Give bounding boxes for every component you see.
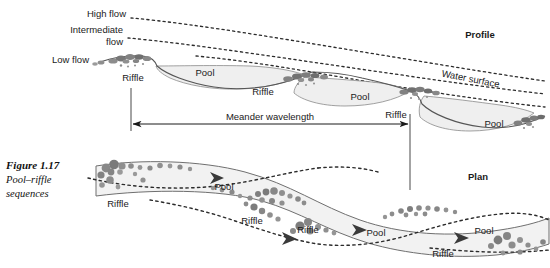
plan-riffle-label-3: Riffle [297,224,318,235]
plan-panel-label: Plan [468,171,488,182]
profile-riffle-label-3: Riffle [385,109,406,120]
profile-riffle-label-1: Riffle [122,72,143,83]
profile-pool-label-3: Pool [484,118,503,129]
figure-background [0,0,550,268]
caption-line-3: sequences [6,188,49,199]
plan-pool-label-3: Pool [474,225,493,236]
plan-riffle-label-4: Riffle [432,248,453,259]
intermediate-flow-label-line2: flow [106,36,123,47]
profile-riffle-label-2: Riffle [252,86,273,97]
caption-title: Figure 1.17 [5,159,60,171]
plan-riffle-label-1: Riffle [107,198,128,209]
plan-pool-label-2: Pool [366,227,385,238]
profile-pool-label-2: Pool [350,91,369,102]
low-flow-label: Low flow [52,54,89,65]
intermediate-flow-label-line1: Intermediate [70,24,123,35]
caption-line-2: Pool–riffle [5,174,52,185]
high-flow-label: High flow [87,8,126,19]
profile-panel-label: Profile [465,29,495,40]
figure-pool-riffle-sequences: High flow Intermediate flow Low flow Wat… [0,0,550,268]
plan-riffle-label-2: Riffle [241,215,262,226]
meander-wavelength-label: Meander wavelength [226,111,314,122]
figure-canvas: High flow Intermediate flow Low flow Wat… [0,0,550,268]
plan-pool-label-1: Pool [214,181,233,192]
profile-pool-label-1: Pool [195,67,214,78]
